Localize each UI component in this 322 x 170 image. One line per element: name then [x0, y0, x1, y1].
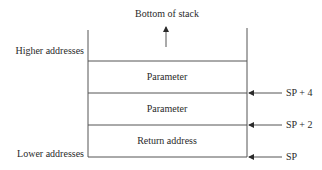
- pointer-label-sp: SP: [286, 151, 297, 163]
- pointer-label-sp-plus-4: SP + 4: [286, 87, 312, 99]
- stack-cell-parameter: Parameter: [147, 71, 188, 83]
- stack-cell-return-address: Return address: [137, 135, 197, 147]
- stack-cell-parameter: Parameter: [147, 103, 188, 115]
- higher-addresses-label: Higher addresses: [15, 45, 84, 57]
- pointer-label-sp-plus-2: SP + 2: [286, 119, 312, 131]
- lower-addresses-label: Lower addresses: [17, 148, 84, 160]
- bottom-of-stack-label: Bottom of stack: [135, 8, 199, 20]
